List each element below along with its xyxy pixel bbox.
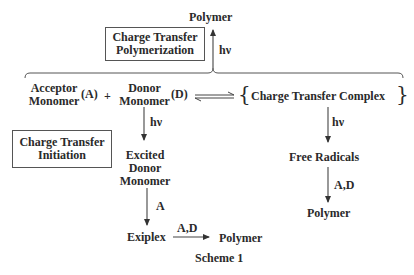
top-polymer-label: Polymer (189, 11, 232, 24)
top-hv-label: hν (219, 44, 231, 57)
exiplex-polymer-label: Polymer (219, 232, 262, 245)
complex-close-brace: } (396, 84, 409, 104)
acceptor-line-2: Monomer (27, 95, 81, 108)
box-line-2: Polymerization (106, 44, 204, 57)
reaction-scheme-diagram: Polymer Charge Transfer Polymerization h… (0, 0, 414, 275)
acceptor-monomer-label: Acceptor Monomer (27, 82, 81, 108)
exiplex-to-polymer-label: A,D (177, 222, 197, 235)
complex-open-brace: { (238, 84, 251, 104)
charge-transfer-initiation-box: Charge Transfer Initiation (12, 130, 112, 168)
box-line-2: Initiation (13, 149, 111, 162)
scheme-caption: Scheme 1 (195, 252, 243, 265)
donor-symbol: (D) (171, 88, 188, 101)
excited-to-exiplex-label: A (156, 200, 165, 213)
exiplex-label: Exiplex (127, 231, 166, 244)
charge-transfer-complex-label: Charge Transfer Complex (251, 90, 385, 103)
donor-monomer-label: Donor Monomer (117, 82, 172, 108)
excited-line-3: Monomer (115, 175, 175, 188)
overarching-brace (25, 68, 403, 78)
radical-polymer-label: Polymer (307, 207, 350, 220)
excited-donor-monomer-label: Excited Donor Monomer (115, 149, 175, 188)
acceptor-symbol: (A) (81, 88, 98, 101)
donor-hv-label: hν (150, 116, 162, 129)
complex-hv-label: hν (332, 116, 344, 129)
free-radicals-label: Free Radicals (289, 151, 359, 164)
charge-transfer-polymerization-box: Charge Transfer Polymerization (105, 27, 205, 61)
donor-line-2: Monomer (117, 95, 172, 108)
radicals-to-polymer-label: A,D (334, 179, 354, 192)
plus-sign: + (104, 90, 111, 103)
